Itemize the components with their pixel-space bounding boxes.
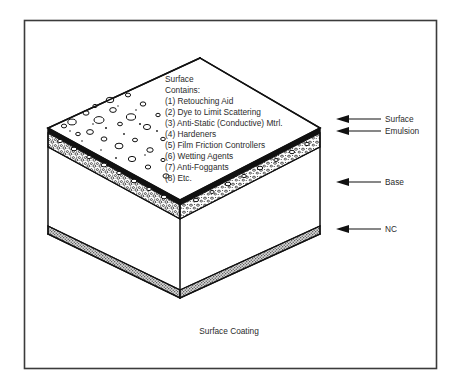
annotation-item-4: (4) Hardeners	[165, 129, 216, 139]
annotation-item-2: (2) Dye to Limit Scattering	[165, 107, 261, 117]
annotation-title-line-2: Contains:	[165, 85, 200, 95]
annotation-item-3: (3) Anti-Static (Conductive) Mtrl.	[165, 118, 283, 128]
figure-root: Surface Contains: (1) Retouching Aid (2)…	[0, 0, 459, 389]
annotation-title-line-1: Surface	[165, 74, 194, 84]
figure-caption: Surface Coating	[199, 326, 259, 336]
annotation-item-6: (6) Wetting Agents	[165, 151, 233, 161]
annotation-item-1: (1) Retouching Aid	[165, 96, 234, 106]
callout-label-surface: Surface	[385, 114, 414, 124]
surface-coating-diagram: Surface Contains: (1) Retouching Aid (2)…	[0, 0, 459, 389]
annotation-item-5: (5) Film Friction Controllers	[165, 140, 265, 150]
annotation-item-8: (8) Etc.	[165, 173, 192, 183]
callout-label-nc: NC	[385, 224, 397, 234]
annotation-item-7: (7) Anti-Foggants	[165, 162, 229, 172]
callout-label-emulsion: Emulsion	[385, 126, 420, 136]
callout-label-base: Base	[385, 177, 404, 187]
